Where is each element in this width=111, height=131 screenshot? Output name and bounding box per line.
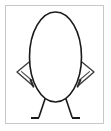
egg-body (30, 12, 82, 102)
illustration-canvas (0, 0, 111, 131)
